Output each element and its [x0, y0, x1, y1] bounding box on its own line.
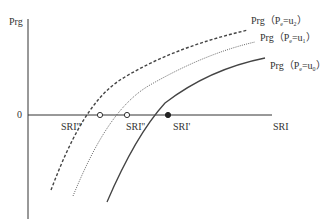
y-axis-label: Prg [9, 16, 23, 27]
intercept-label-u2: SRI''' [61, 121, 82, 132]
intercept-marker-u2 [97, 112, 102, 117]
curve-u2-dashed [51, 30, 248, 190]
diagram-canvas: Prg 0 SRI SRI''' SRI'' SRI' Prg（Pe=u2） P… [0, 0, 325, 223]
x-axis-label: SRI [273, 121, 289, 132]
intercept-label-u1: SRI'' [126, 121, 145, 132]
curve-label-u2: Prg（Pe=u2） [251, 15, 307, 27]
curve-label-u0: Prg（Pe=u0） [270, 60, 325, 72]
curve-label-u1: Prg（Pe=u1） [260, 32, 316, 44]
diagram-svg: Prg 0 SRI SRI''' SRI'' SRI' Prg（Pe=u2） P… [0, 0, 325, 223]
intercept-label-u0: SRI' [173, 121, 191, 132]
intercept-marker-u1 [124, 112, 129, 117]
curve-u1-dotted [73, 42, 255, 196]
intercept-marker-u0 [165, 112, 170, 117]
origin-label: 0 [17, 109, 22, 120]
